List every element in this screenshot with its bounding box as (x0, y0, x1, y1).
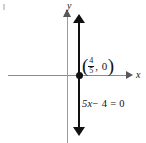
point-label-y-value: , 0 (95, 61, 108, 72)
x-axis-label: x (136, 70, 140, 80)
equation-label: 5x− 4 = 0 (82, 99, 125, 110)
x-intercept-point-label: ( 4 5 , 0 ) (82, 57, 114, 75)
equation-equals-rhs: = 0 (110, 98, 125, 109)
coordinate-plane-figure: x y ( 4 5 , 0 ) 5x− 4 = 0 (0, 0, 146, 143)
point-label-fraction: 4 5 (88, 57, 94, 75)
y-axis (67, 16, 68, 143)
scan-artifact (3, 4, 5, 10)
fraction-numerator: 4 (88, 57, 94, 65)
equation-lhs-term: 5x (82, 98, 93, 109)
fraction-denominator: 5 (88, 67, 94, 75)
x-axis-arrow-icon (126, 71, 133, 79)
equation-minus-constant: − 4 (93, 98, 108, 109)
point-label-close-paren: ) (108, 59, 114, 74)
y-axis-label: y (67, 1, 71, 11)
plot-line-down-arrow-icon (73, 127, 85, 136)
